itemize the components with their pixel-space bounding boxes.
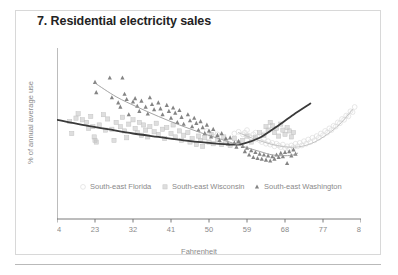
scatter-plot-svg: 050100150200142332415059687786South-east… xyxy=(57,48,361,248)
svg-text:59: 59 xyxy=(243,225,251,234)
bottom-divider xyxy=(15,264,381,265)
svg-text:23: 23 xyxy=(91,225,99,234)
legend-marker-square xyxy=(163,185,167,189)
svg-text:68: 68 xyxy=(281,225,289,234)
svg-text:32: 32 xyxy=(129,225,137,234)
legend-label: South-east Washington xyxy=(264,182,342,191)
legend-label: South-east Florida xyxy=(90,182,152,191)
legend-marker-circle xyxy=(81,184,86,189)
page-title: 7. Residential electricity sales xyxy=(37,14,211,28)
svg-text:77: 77 xyxy=(319,225,327,234)
legend-label: South-east Wisconsin xyxy=(172,182,245,191)
plot-area: 050100150200142332415059687786South-east… xyxy=(57,48,361,219)
legend-marker-triangle xyxy=(255,184,259,188)
svg-text:14: 14 xyxy=(57,225,61,234)
svg-text:86: 86 xyxy=(357,225,361,234)
svg-text:41: 41 xyxy=(167,225,175,234)
svg-text:50: 50 xyxy=(205,225,213,234)
series-south-east-washington xyxy=(93,76,298,166)
chart-page: 7. Residential electricity sales 0501001… xyxy=(0,0,398,275)
x-axis-title: Fahrenheit xyxy=(0,247,398,256)
y-axis-title: % of annual average use xyxy=(26,63,35,183)
